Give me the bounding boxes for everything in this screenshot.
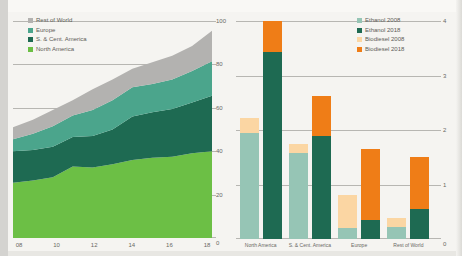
legend-swatch-ethanol-2008 [357,18,362,23]
category-label: North America [236,242,285,248]
bar-group [384,21,433,239]
legend-item: Rest of World [28,17,87,24]
bar-groups [236,21,433,239]
photo-bottom-edge [0,251,462,256]
bar-group [335,21,384,239]
bar-segment-ethanol_2018 [361,220,380,239]
stacked-bar-2018 [410,157,429,239]
stacked-bar-2018 [361,149,380,239]
bar-category-labels: North AmericaS. & Cent. AmericaEuropeRes… [236,242,433,248]
legend-item: Ethanol 2008 [357,17,404,24]
legend-label: North America [36,46,74,53]
photo-left-edge [0,0,8,256]
area-chart-legend: Rest of World Europe S. & Cent. America … [28,17,87,53]
area-x-labels: 081012141618 [13,242,212,250]
y-tick-label: 60 [216,105,223,111]
x-tick-label: 08 [16,242,23,248]
area-chart-svg [13,21,212,238]
legend-swatch-ethanol-2018 [357,28,362,33]
legend-item: Ethanol 2018 [357,27,404,34]
legend-label: Rest of World [36,17,72,24]
stacked-bar-2018 [312,96,331,239]
stacked-bar-2008 [240,118,259,239]
legend-swatch-biodiesel-2008 [357,37,362,42]
legend-label: Ethanol 2008 [365,17,400,24]
bar-segment-biodiesel_2018 [410,157,429,209]
legend-item: Europe [28,27,87,34]
legend-swatch-rest-of-world [28,18,33,23]
bar-segment-biodiesel_2018 [263,21,282,52]
bar-group [285,21,334,239]
x-tick-label: 14 [128,242,135,248]
stacked-bar-2018 [263,21,282,239]
stacked-bar-2008 [387,218,406,239]
y-tick-label: 1 [443,182,446,188]
bar-segment-ethanol_2008 [289,153,308,239]
photo-right-edge [456,0,462,256]
bar-segment-biodiesel_2018 [361,149,380,220]
legend-item: Biodiesel 2008 [357,36,404,43]
stacked-bar-2008 [338,195,357,239]
area-plot: 100806040200 [13,21,212,238]
bar-segment-ethanol_2008 [338,228,357,239]
bar-segment-ethanol_2008 [387,227,406,239]
bar-segment-biodiesel_2018 [312,96,331,135]
legend-label: Biodiesel 2018 [365,46,404,53]
legend-swatch-europe [28,28,33,33]
legend-item: North America [28,46,87,53]
legend-label: Ethanol 2018 [365,27,400,34]
category-label: S. & Cent. America [285,242,334,248]
y-tick-label: 4 [443,18,446,24]
bar-chart-legend: Ethanol 2008 Ethanol 2018 Biodiesel 2008… [357,17,404,53]
legend-swatch-biodiesel-2018 [357,47,362,52]
x-tick-label: 10 [53,242,60,248]
bar-segment-biodiesel_2008 [338,195,357,228]
y-tick-label: 80 [216,61,223,67]
bar-segment-biodiesel_2008 [387,218,406,227]
photographed-chart-page: 100806040200 081012141618 Rest of World … [0,0,462,256]
photo-top-edge [0,0,462,12]
bar-segment-biodiesel_2008 [240,118,259,133]
bar-segment-ethanol_2018 [410,209,429,239]
y-tick-label: 0 [443,241,446,247]
biofuels-by-region-area-chart: 100806040200 081012141618 Rest of World … [13,21,212,238]
y-tick-label: 3 [443,73,446,79]
y-tick-label: 100 [216,18,226,24]
legend-label: S. & Cent. America [36,36,87,43]
y-tick-label: 40 [216,148,223,154]
legend-label: Europe [36,27,55,34]
legend-swatch-north-america [28,47,33,52]
category-label: Rest of World [384,242,433,248]
y-tick-label: 20 [216,192,223,198]
x-tick-label: 18 [204,242,211,248]
legend-item: Biodiesel 2018 [357,46,404,53]
bar-segment-ethanol_2018 [263,52,282,239]
bar-segment-biodiesel_2008 [289,144,308,153]
bar-segment-ethanol_2018 [312,136,331,240]
legend-swatch-s-cent-america [28,37,33,42]
category-label: Europe [335,242,384,248]
legend-label: Biodiesel 2008 [365,36,404,43]
x-tick-label: 12 [91,242,98,248]
y-tick-label: 2 [443,127,446,133]
stacked-bar-2008 [289,144,308,239]
bar-group [236,21,285,239]
x-tick-label: 16 [166,242,173,248]
ethanol-biodiesel-bar-chart: 43210 North AmericaS. & Cent. AmericaEur… [236,21,433,239]
y-tick-label: 0 [216,240,219,246]
bar-segment-ethanol_2008 [240,133,259,239]
bar-plot: 43210 [236,21,433,239]
legend-item: S. & Cent. America [28,36,87,43]
